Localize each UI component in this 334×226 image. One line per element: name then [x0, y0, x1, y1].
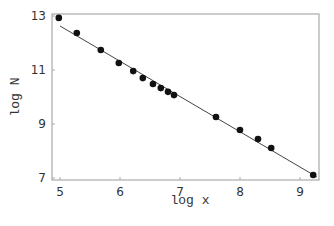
y-tick-label: 13	[31, 9, 46, 23]
x-tick-label: 8	[236, 185, 244, 199]
scatter-chart: 56789791113 log x log N	[0, 0, 334, 226]
data-point	[213, 114, 220, 121]
y-tick-label: 11	[31, 63, 46, 77]
data-point	[74, 30, 81, 37]
data-point	[56, 15, 63, 22]
axis-ticks: 56789791113	[31, 9, 304, 199]
y-tick-label: 9	[38, 117, 46, 131]
data-point	[255, 136, 262, 143]
data-point	[98, 47, 105, 54]
x-tick-label: 5	[56, 185, 64, 199]
data-point	[237, 127, 244, 134]
data-point	[140, 75, 147, 82]
data-point	[268, 145, 275, 152]
x-tick-label: 6	[116, 185, 124, 199]
data-point	[130, 68, 137, 75]
x-axis-label: log x	[170, 193, 209, 208]
data-point	[171, 92, 178, 99]
x-tick-label: 9	[296, 185, 304, 199]
data-point	[158, 85, 165, 92]
data-point	[116, 60, 123, 67]
y-axis-label: log N	[8, 77, 23, 116]
y-tick-label: 7	[38, 171, 46, 185]
data-point	[150, 81, 157, 88]
data-point	[165, 89, 172, 96]
data-point	[310, 172, 317, 179]
